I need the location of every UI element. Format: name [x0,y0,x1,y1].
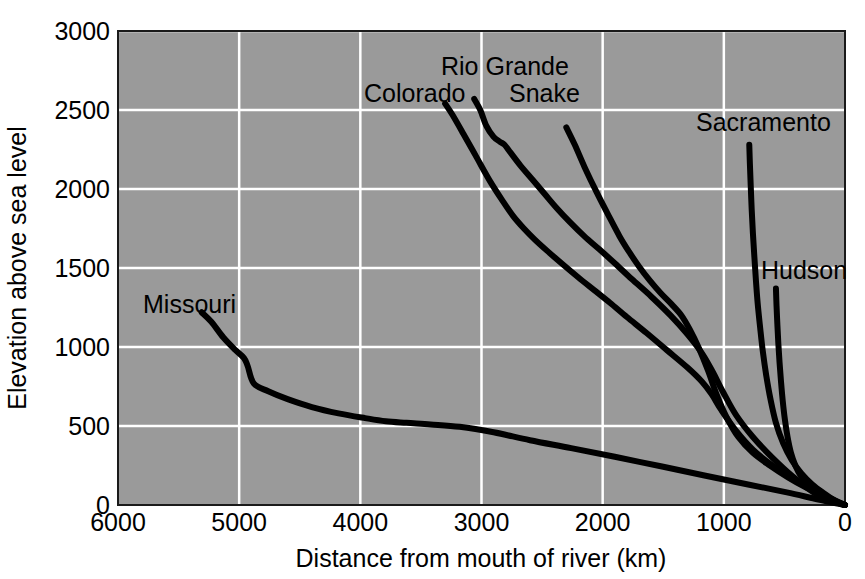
x-tick-label: 6000 [90,508,146,536]
y-axis-tick-labels: 050010001500200025003000 [54,17,110,519]
x-tick-label: 1000 [696,508,752,536]
y-tick-label: 1000 [54,333,110,361]
x-tick-label: 2000 [575,508,631,536]
y-tick-label: 500 [68,412,110,440]
x-axis-title: Distance from mouth of river (km) [296,544,667,572]
x-axis-tick-labels: 6000500040003000200010000 [90,508,852,536]
y-axis-title: Elevation above sea level [3,126,31,410]
x-tick-label: 5000 [211,508,267,536]
series-label-snake: Snake [509,79,580,107]
y-tick-label: 2500 [54,96,110,124]
x-tick-label: 3000 [454,508,510,536]
y-tick-label: 3000 [54,17,110,45]
series-label-rio-grande: Rio Grande [441,52,569,80]
x-tick-label: 4000 [333,508,389,536]
series-label-colorado: Colorado [364,79,465,107]
series-label-sacramento: Sacramento [696,108,831,136]
y-tick-label: 2000 [54,175,110,203]
chart-canvas: 050010001500200025003000 600050004000300… [0,0,865,579]
y-tick-label: 1500 [54,254,110,282]
series-label-hudson: Hudson [761,256,847,284]
river-profile-figure: 050010001500200025003000 600050004000300… [0,0,865,579]
series-label-missouri: Missouri [143,290,236,318]
x-tick-label: 0 [838,508,852,536]
